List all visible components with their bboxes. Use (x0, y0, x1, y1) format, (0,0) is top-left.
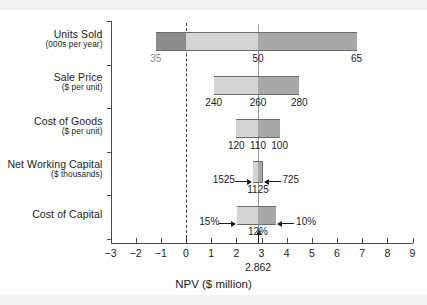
bottom-band (0, 295, 427, 305)
y-axis-category-tick (107, 152, 112, 153)
driver-label-high: 725 (283, 174, 327, 185)
category-label-cost-of-goods: Cost of Goods($ per unit) (6, 116, 103, 136)
y-axis-category-tick (107, 239, 112, 240)
bar-segment-upside (258, 207, 276, 224)
driver-label-low: 35 (134, 53, 178, 64)
category-label-secondary: ($ per unit) (6, 83, 103, 92)
tornado-bar[interactable] (236, 119, 279, 138)
bar-segment-downside (186, 33, 258, 50)
bar-segment-upside (258, 162, 262, 182)
category-label-secondary: ($ per unit) (6, 127, 103, 136)
x-axis-line (111, 243, 413, 244)
x-axis-tick (236, 238, 237, 243)
x-axis-tick-label: 4 (273, 247, 301, 259)
top-band (0, 0, 427, 10)
y-axis-category-tick (107, 108, 112, 109)
driver-label-base: 50 (236, 53, 280, 64)
x-axis-tick (262, 238, 263, 243)
category-label-secondary: (000s per year) (6, 40, 103, 49)
x-axis-tick-label: −2 (122, 247, 150, 259)
x-axis-tick-label: 1 (197, 247, 225, 259)
tornado-bar[interactable] (156, 32, 357, 51)
x-axis-tick (337, 238, 338, 243)
x-axis-tick-label: 3 (248, 247, 276, 259)
category-label-cost-of-capital: Cost of Capital (6, 209, 103, 220)
driver-label-base: 260 (236, 97, 280, 108)
x-axis-tick (362, 238, 363, 243)
bar-segment-downside (236, 120, 258, 137)
bar-segment-upside (258, 120, 280, 137)
x-axis-title: NPV ($ million) (0, 278, 427, 290)
callout-arrow-low-icon (235, 181, 248, 182)
x-axis-tick (211, 238, 212, 243)
callout-arrow-high-icon (281, 223, 294, 224)
category-label-units-sold: Units Sold(000s per year) (6, 29, 103, 49)
driver-label-base: 12% (236, 226, 280, 237)
bar-segment-upside (258, 77, 299, 94)
driver-label-high: 10% (296, 216, 340, 227)
x-axis-tick-label: 6 (323, 247, 351, 259)
tornado-bar[interactable] (214, 76, 300, 95)
x-axis-tick (136, 238, 137, 243)
x-axis-tick-label: −3 (97, 247, 125, 259)
x-axis-tick-label: 5 (298, 247, 326, 259)
driver-label-high: 100 (258, 140, 302, 151)
category-label-primary: Cost of Capital (6, 209, 103, 220)
category-label-primary: Units Sold (6, 29, 103, 40)
x-axis-tick-label: 7 (348, 247, 376, 259)
x-axis-tick (387, 238, 388, 243)
x-axis-tick (312, 238, 313, 243)
category-label-secondary: ($ thousands) (6, 170, 103, 179)
y-axis-category-tick (107, 21, 112, 22)
x-axis-tick-label: 9 (399, 247, 427, 259)
x-axis-tick-label: 8 (373, 247, 401, 259)
bar-segment-upside (258, 33, 357, 50)
category-label-net-working-capital: Net Working Capital($ thousands) (6, 159, 103, 179)
x-axis-tick (161, 238, 162, 243)
bar-segment-downside (237, 207, 258, 224)
driver-label-low: 1525 (195, 174, 235, 185)
y-axis-category-tick (107, 65, 112, 66)
zero-reference-line (186, 23, 187, 243)
x-axis-tick (413, 238, 414, 243)
category-label-sale-price: Sale Price($ per unit) (6, 72, 103, 92)
tornado-bar[interactable] (253, 161, 263, 183)
driver-label-high: 280 (277, 97, 321, 108)
driver-label-base: 1125 (236, 184, 280, 195)
driver-label-low: 15% (179, 216, 219, 227)
tornado-diagram: NPV ($ million) 2.862 −3−2−10123456789Un… (0, 0, 427, 305)
callout-arrow-high-icon (268, 181, 281, 182)
driver-label-high: 65 (335, 53, 379, 64)
x-axis-tick-label: −1 (147, 247, 175, 259)
bar-segment-negative (156, 33, 186, 50)
x-axis-tick-label: 0 (172, 247, 200, 259)
callout-arrow-low-icon (219, 223, 232, 224)
base-case-value-label: 2.862 (228, 261, 288, 273)
y-axis-line (111, 21, 112, 243)
driver-label-low: 240 (192, 97, 236, 108)
bar-segment-downside (214, 77, 258, 94)
x-axis-tick (287, 238, 288, 243)
x-axis-tick-label: 2 (222, 247, 250, 259)
y-axis-category-tick (107, 195, 112, 196)
tornado-bar[interactable] (237, 206, 276, 225)
